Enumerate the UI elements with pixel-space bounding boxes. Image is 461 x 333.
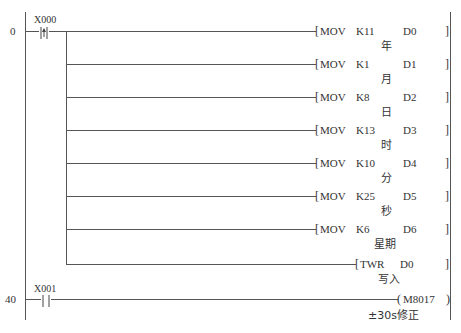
opcode: TWR: [360, 258, 384, 270]
coil-open-icon: (: [397, 293, 401, 305]
rising-edge-contact-icon: [39, 25, 49, 37]
right-power-rail: [450, 12, 451, 320]
source-operand: K25: [356, 190, 375, 202]
source-operand: K8: [356, 91, 369, 103]
coil-comment: ±30s修正: [368, 310, 419, 322]
source-operand: K10: [356, 157, 375, 169]
normally-open-contact-icon: [41, 293, 51, 305]
opcode: MOV: [320, 58, 346, 70]
source-operand: D0: [400, 258, 413, 270]
comment: 月: [381, 74, 392, 86]
source-operand: K13: [356, 124, 375, 136]
source-operand: K6: [356, 223, 369, 235]
left-power-rail: [25, 12, 26, 320]
dest-operand: D0: [403, 25, 416, 37]
coil-label: M8017: [403, 293, 435, 305]
comment: 日: [381, 107, 392, 119]
comment: 时: [381, 140, 392, 152]
opcode: MOV: [320, 223, 346, 235]
source-operand: K1: [356, 58, 369, 70]
rung-0-wire-a: [25, 31, 39, 32]
opcode: MOV: [320, 157, 346, 169]
step-number-0: 0: [10, 25, 16, 37]
comment: 星期: [374, 239, 396, 251]
rung-0-wire-b: [49, 31, 66, 32]
dest-operand: D3: [403, 124, 416, 136]
dest-operand: D6: [403, 223, 416, 235]
rung-40-wire-b: [51, 299, 398, 300]
dest-operand: D5: [403, 190, 416, 202]
dest-operand: D2: [403, 91, 416, 103]
comment: 年: [381, 41, 392, 53]
coil-close-icon: ): [446, 293, 450, 305]
dest-operand: D1: [403, 58, 416, 70]
opcode: MOV: [320, 25, 346, 37]
dest-operand: D4: [403, 157, 416, 169]
comment: 秒: [381, 206, 392, 218]
opcode: MOV: [320, 91, 346, 103]
comment: 分: [381, 173, 392, 185]
step-number-40: 40: [5, 293, 16, 305]
comment: 写入: [378, 274, 400, 286]
opcode: MOV: [320, 190, 346, 202]
opcode: MOV: [320, 124, 346, 136]
rung-40-wire-a: [25, 299, 41, 300]
source-operand: K11: [356, 25, 375, 37]
